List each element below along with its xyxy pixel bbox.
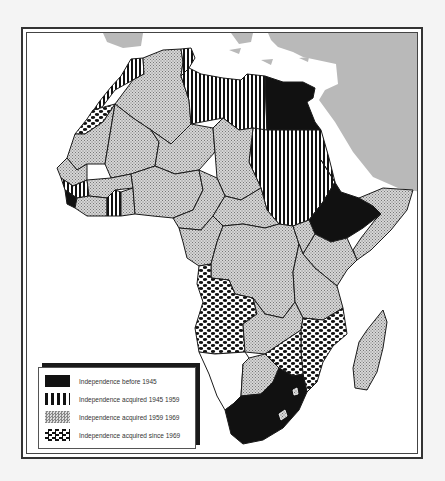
legend-label: Independence acquired 1959 1969 — [79, 414, 179, 421]
legend-item-1945-1959: Independence acquired 1945 1959 — [45, 392, 179, 406]
vertical-stripes-swatch-icon — [45, 393, 70, 405]
ivory-coast — [75, 196, 107, 216]
legend-label: Independence acquired 1945 1959 — [79, 396, 179, 403]
egypt — [265, 76, 321, 130]
legend-label: Independence before 1945 — [79, 378, 157, 385]
legend-box: Independence before 1945 Independence ac… — [38, 367, 196, 449]
legend-item-1959-1969: Independence acquired 1959 1969 — [45, 410, 179, 424]
legend-label: Independence acquired since 1969 — [79, 432, 180, 439]
mozambique — [301, 308, 347, 392]
madagascar — [353, 310, 387, 390]
checker-swatch-icon — [45, 429, 70, 441]
solid-black-swatch-icon — [45, 375, 70, 387]
legend-item-before-1945: Independence before 1945 — [45, 374, 157, 388]
legend-item-since-1969: Independence acquired since 1969 — [45, 428, 180, 442]
crosshatch-swatch-icon — [45, 411, 70, 423]
map-legend: Independence before 1945 Independence ac… — [38, 367, 196, 449]
